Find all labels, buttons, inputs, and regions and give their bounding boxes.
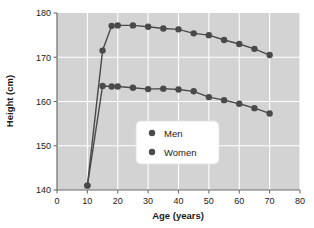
legend-label-men: Men — [164, 128, 182, 139]
y-axis-title: Height (cm) — [4, 75, 15, 127]
data-point — [160, 85, 166, 91]
data-point — [108, 83, 114, 89]
x-tick-label: 80 — [295, 196, 305, 206]
x-tick-label: 70 — [265, 196, 275, 206]
data-point — [251, 46, 257, 52]
data-point — [221, 97, 227, 103]
x-axis-title: Age (years) — [152, 210, 204, 221]
x-tick-label: 60 — [234, 196, 244, 206]
legend-label-women: Women — [164, 147, 197, 158]
data-point — [99, 83, 105, 89]
data-point — [190, 30, 196, 36]
data-point — [145, 24, 151, 30]
data-point — [130, 22, 136, 28]
x-tick-label: 30 — [143, 196, 153, 206]
height-vs-age-line-chart: 01020304050607080 140150160170180 Age (y… — [0, 0, 314, 228]
data-point — [145, 86, 151, 92]
y-tick-label: 160 — [36, 97, 51, 107]
data-point — [175, 86, 181, 92]
data-point — [99, 47, 105, 53]
y-tick-label: 140 — [36, 185, 51, 195]
chart-legend: Men Women — [136, 121, 219, 164]
x-tick-label: 40 — [173, 196, 183, 206]
x-axis-tick-labels: 01020304050607080 — [54, 196, 305, 206]
data-point — [266, 52, 272, 58]
y-tick-label: 150 — [36, 141, 51, 151]
x-tick-label: 50 — [204, 196, 214, 206]
data-point — [130, 85, 136, 91]
x-tick-label: 20 — [113, 196, 123, 206]
data-point — [266, 110, 272, 116]
data-point — [221, 37, 227, 43]
data-point — [236, 41, 242, 47]
data-point — [236, 101, 242, 107]
data-point — [115, 22, 121, 28]
y-tick-label: 180 — [36, 8, 51, 18]
data-point — [84, 182, 90, 188]
x-tick-label: 0 — [54, 196, 59, 206]
x-tick-label: 10 — [82, 196, 92, 206]
data-point — [251, 105, 257, 111]
legend-marker-men — [149, 130, 155, 136]
data-point — [206, 32, 212, 38]
data-point — [108, 23, 114, 29]
data-point — [175, 26, 181, 32]
data-point — [206, 94, 212, 100]
legend-marker-women — [149, 149, 155, 155]
y-tick-label: 170 — [36, 53, 51, 63]
data-point — [115, 83, 121, 89]
data-point — [190, 88, 196, 94]
data-point — [160, 25, 166, 31]
